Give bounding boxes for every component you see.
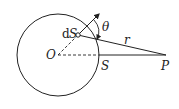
- label-P: P: [160, 59, 170, 73]
- label-r: r: [124, 33, 131, 47]
- normal-vector-arrow: [78, 14, 99, 35]
- label-theta: θ: [102, 20, 110, 34]
- label-S: S: [101, 59, 109, 73]
- line-r-dS-to-P: [78, 35, 166, 55]
- label-dS-S: S: [69, 27, 77, 41]
- label-O: O: [46, 48, 56, 62]
- gauss-surface-diagram: d S θ O S r P: [0, 0, 179, 109]
